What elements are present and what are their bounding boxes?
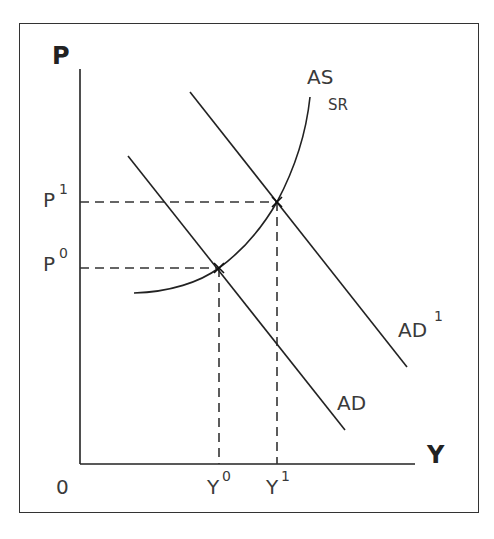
ad-curve [128,156,345,430]
origin-label: 0 [56,477,69,497]
ad1-curve [190,92,407,367]
diagram-canvas [0,0,494,539]
x-axis-label: Y [427,443,444,467]
p1-label: P1 [43,190,55,210]
as-sub-label: SR [328,98,348,113]
p0-label: P0 [43,254,55,274]
as-sr-curve [134,97,310,293]
y-axis-label: P [52,44,70,68]
ad-label: AD [337,393,366,413]
as-label: AS [307,67,333,87]
y0-label: Y0 [207,477,219,497]
ad1-label: AD1 [398,320,427,340]
y1-label: Y1 [266,477,278,497]
